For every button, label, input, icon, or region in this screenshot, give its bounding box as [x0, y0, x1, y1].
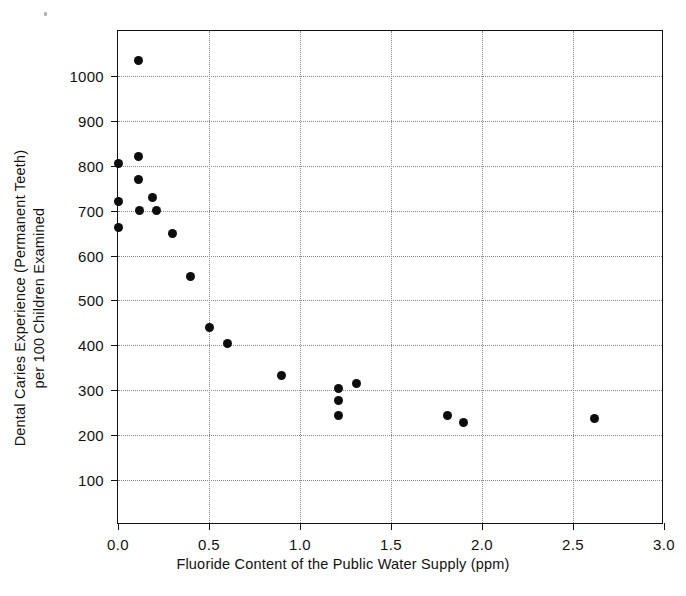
data-point [590, 414, 599, 423]
y-axis-tick-label: 700 [78, 202, 104, 219]
y-gridline [118, 300, 662, 301]
y-axis-tick [111, 435, 118, 436]
x-axis-tick-label: 0.0 [107, 536, 129, 553]
data-point [134, 152, 143, 161]
x-axis-tick-label: 1.5 [380, 536, 402, 553]
data-point [134, 56, 143, 65]
data-point [223, 339, 232, 348]
y-gridline [118, 345, 662, 346]
x-gridline [300, 31, 301, 523]
x-axis-tick [391, 523, 392, 530]
x-axis-tick [209, 523, 210, 530]
data-point [152, 206, 161, 215]
x-gridline [573, 31, 574, 523]
y-axis-title-line-1: Dental Caries Experience (Permanent Teet… [11, 150, 30, 447]
y-axis-tick [111, 300, 118, 301]
y-axis-tick [111, 76, 118, 77]
data-point [114, 159, 123, 168]
y-gridline [118, 435, 662, 436]
y-axis-tick-label: 200 [78, 427, 104, 444]
x-gridline [482, 31, 483, 523]
y-gridline [118, 390, 662, 391]
plot-area: 10020030040050060070080090010000.00.51.0… [117, 30, 663, 524]
data-point [277, 371, 286, 380]
y-gridline [118, 166, 662, 167]
y-axis-tick-label: 100 [78, 472, 104, 489]
data-point [186, 272, 195, 281]
data-point [459, 418, 468, 427]
y-gridline [118, 76, 662, 77]
y-axis-tick [111, 256, 118, 257]
x-axis-tick [573, 523, 574, 530]
data-point [334, 411, 343, 420]
data-point [205, 323, 214, 332]
y-axis-tick-label: 800 [78, 157, 104, 174]
y-axis-tick-label: 600 [78, 247, 104, 264]
data-point [334, 396, 343, 405]
y-gridline [118, 211, 662, 212]
x-axis-tick-label: 0.5 [198, 536, 220, 553]
y-gridline [118, 256, 662, 257]
data-point [148, 193, 157, 202]
data-point [168, 229, 177, 238]
x-axis-tick-label: 2.0 [471, 536, 493, 553]
x-gridline [209, 31, 210, 523]
x-axis-title: Fluoride Content of the Public Water Sup… [0, 556, 686, 572]
y-axis-tick-label: 400 [78, 337, 104, 354]
y-axis-tick-label: 900 [78, 112, 104, 129]
scatter-chart-figure: Dental Caries Experience (Permanent Teet… [0, 0, 686, 596]
y-axis-title-line-2: per 100 Children Examined [30, 150, 49, 447]
data-point [114, 223, 123, 232]
x-axis-tick [118, 523, 119, 530]
x-gridline [391, 31, 392, 523]
data-point [114, 197, 123, 206]
y-axis-tick [111, 121, 118, 122]
y-axis-tick-label: 300 [78, 382, 104, 399]
y-gridline [118, 480, 662, 481]
x-axis-tick [300, 523, 301, 530]
scan-artifact-speck [44, 12, 47, 16]
data-point [352, 379, 361, 388]
x-axis-tick [664, 523, 665, 530]
y-axis-tick [111, 211, 118, 212]
data-point [334, 384, 343, 393]
y-gridline [118, 121, 662, 122]
y-axis-tick [111, 390, 118, 391]
data-point [135, 206, 144, 215]
y-axis-title: Dental Caries Experience (Permanent Teet… [0, 0, 60, 596]
x-axis-tick [482, 523, 483, 530]
x-axis-tick-label: 2.5 [562, 536, 584, 553]
y-axis-tick-label: 1000 [69, 67, 104, 84]
y-axis-tick-label: 500 [78, 292, 104, 309]
data-point [134, 175, 143, 184]
y-axis-tick [111, 345, 118, 346]
x-axis-tick-label: 3.0 [653, 536, 675, 553]
data-point [443, 411, 452, 420]
x-axis-tick-label: 1.0 [289, 536, 311, 553]
y-axis-tick [111, 480, 118, 481]
